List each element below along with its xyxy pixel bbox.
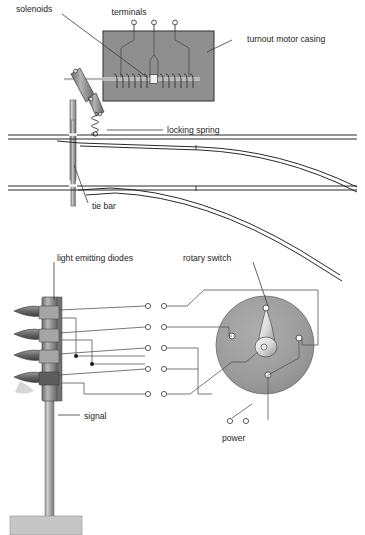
- wire-junction-dot-1: [74, 354, 78, 358]
- crank-pivot-top: [74, 69, 78, 73]
- label-terminals: terminals: [112, 7, 147, 17]
- label-solenoids: solenoids: [16, 4, 52, 14]
- tiebar-gap-upper: [69, 133, 77, 135]
- led-lamp-2: [39, 329, 59, 342]
- terminal-left-5: [145, 391, 150, 396]
- label-power: power: [222, 433, 246, 443]
- turnout-motor-casing: [103, 31, 214, 101]
- technical-diagram: solenoids terminals turnout motor casing…: [0, 0, 365, 535]
- armature-block: [150, 75, 158, 84]
- label-turnout-motor-casing: turnout motor casing: [247, 34, 326, 44]
- tie-bar-extension: [71, 120, 75, 206]
- label-light-emitting-diodes: light emitting diodes: [57, 253, 133, 263]
- terminal-right-2: [161, 324, 166, 329]
- crank-pivot-mid: [89, 97, 93, 101]
- wire-junction-dot-2: [90, 362, 94, 366]
- terminal-left-1: [145, 303, 150, 308]
- terminal-right-1: [161, 303, 166, 308]
- signal-post: [45, 390, 54, 520]
- label-locking-spring: locking spring: [167, 125, 220, 135]
- terminal-right-3: [161, 345, 166, 350]
- led-lamp-3: [39, 350, 59, 363]
- switch-contact-right: [296, 335, 302, 341]
- label-tie-bar: tie bar: [92, 201, 116, 211]
- diagram-canvas: solenoids terminals turnout motor casing…: [0, 0, 365, 535]
- terminal-left-4: [145, 366, 150, 371]
- terminal-post-3: [173, 20, 178, 25]
- terminal-left-3: [145, 345, 150, 350]
- terminal-post-1: [132, 20, 137, 25]
- terminal-right-4: [161, 366, 166, 371]
- terminal-right-5: [161, 391, 166, 396]
- label-signal: signal: [84, 411, 107, 421]
- rotary-switch-spindle: [261, 344, 267, 350]
- label-rotary-switch: rotary switch: [183, 253, 231, 263]
- terminal-post-2: [152, 20, 157, 25]
- signal-base-plate: [10, 516, 82, 535]
- led-lamp-1: [39, 306, 59, 319]
- power-terminal-2: [243, 418, 248, 423]
- tiebar-gap-lower: [69, 184, 77, 186]
- led-lamp-4: [39, 372, 59, 385]
- power-terminal-1: [227, 418, 232, 423]
- terminal-left-2: [145, 324, 150, 329]
